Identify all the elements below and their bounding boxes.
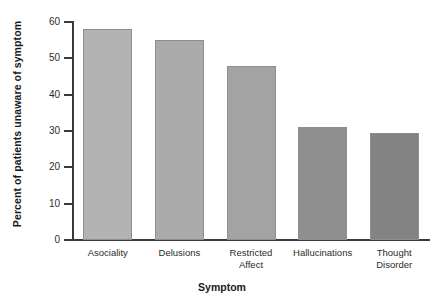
bar [227, 66, 276, 240]
bar [370, 133, 419, 240]
y-tick-label-text: 50 [34, 53, 60, 63]
x-axis-category-label-line: Thought [358, 247, 430, 259]
y-tick-label: 10 [30, 199, 60, 209]
x-axis-category-label-line: Asociality [72, 247, 144, 259]
y-tick-label-text: 30 [34, 126, 60, 136]
y-tick-label: 30 [30, 126, 60, 136]
x-axis-category-label: ThoughtDisorder [358, 247, 430, 271]
bar-chart: Percent of patients unaware of symptom 0… [0, 0, 444, 304]
y-tick-label-text: 20 [34, 162, 60, 172]
x-axis-category-label-line: Hallucinations [287, 247, 359, 259]
x-axis-category-label-line: Disorder [358, 259, 430, 271]
y-tick-label: 40 [30, 90, 60, 100]
x-axis-category-label: Delusions [144, 247, 216, 259]
plot-area [72, 22, 430, 240]
x-axis-category-label-line: Affect [215, 259, 287, 271]
x-axis-title: Symptom [0, 281, 444, 293]
bar [298, 127, 347, 240]
y-tick-label: 60 [30, 17, 60, 27]
bar [155, 40, 204, 240]
x-axis-category-label: Hallucinations [287, 247, 359, 259]
y-tick-label-text: 40 [34, 90, 60, 100]
y-axis-title: Percent of patients unaware of symptom [8, 4, 26, 244]
y-tick-label-text: 0 [34, 235, 60, 245]
x-axis-category-label-line: Delusions [144, 247, 216, 259]
x-axis-category-label-line: Restricted [215, 247, 287, 259]
x-axis-category-label: RestrictedAffect [215, 247, 287, 271]
y-tick-label: 20 [30, 162, 60, 172]
bar [83, 29, 132, 240]
y-tick-label: 0 [30, 235, 60, 245]
y-tick-label-text: 60 [34, 17, 60, 27]
y-tick-label-text: 10 [34, 199, 60, 209]
y-tick-label: 50 [30, 53, 60, 63]
x-axis-category-label: Asociality [72, 247, 144, 259]
